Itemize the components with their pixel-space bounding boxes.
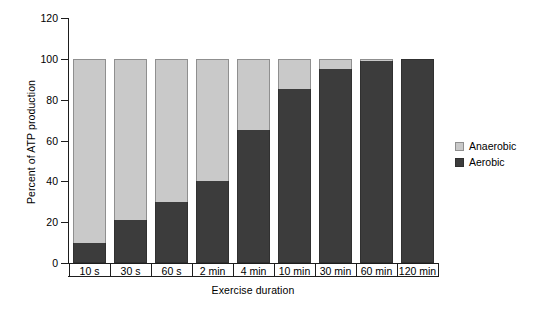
bar-stack[interactable] bbox=[237, 59, 270, 263]
bar-segment-aerobic[interactable] bbox=[237, 130, 270, 263]
bar-slot bbox=[274, 18, 315, 263]
y-axis-tick-label: 60 bbox=[18, 136, 58, 147]
y-axis-tick-label: 0 bbox=[18, 258, 58, 269]
bar-stack[interactable] bbox=[278, 59, 311, 263]
bar-slot bbox=[356, 18, 397, 263]
bar-segment-anaerobic[interactable] bbox=[114, 59, 147, 220]
x-axis-tick-label: 60 min bbox=[356, 265, 397, 277]
bar-slot bbox=[110, 18, 151, 263]
bar-slot bbox=[315, 18, 356, 263]
bar-slot bbox=[397, 18, 438, 263]
x-axis-tick-label: 10 s bbox=[69, 265, 110, 277]
bar-segment-aerobic[interactable] bbox=[196, 181, 229, 263]
x-axis-tick-label: 30 s bbox=[110, 265, 151, 277]
y-axis-tick-label: 100 bbox=[18, 54, 58, 65]
y-axis-tick-label: 120 bbox=[18, 13, 58, 24]
y-axis-tick-mark bbox=[61, 18, 68, 19]
bar-segment-aerobic[interactable] bbox=[319, 69, 352, 263]
bar-stack[interactable] bbox=[360, 59, 393, 263]
bar-segment-anaerobic[interactable] bbox=[278, 59, 311, 90]
bar-slot bbox=[192, 18, 233, 263]
y-axis-tick-mark bbox=[61, 181, 68, 182]
y-axis-tick-mark bbox=[61, 222, 68, 223]
bar-segment-aerobic[interactable] bbox=[278, 89, 311, 263]
x-axis-tick-label: 120 min bbox=[397, 265, 438, 277]
bar-segment-aerobic[interactable] bbox=[73, 243, 106, 263]
y-axis-tick-mark bbox=[61, 141, 68, 142]
bar-segment-aerobic[interactable] bbox=[114, 220, 147, 263]
bar-segment-aerobic[interactable] bbox=[155, 202, 188, 263]
bar-slot bbox=[151, 18, 192, 263]
aerobic-swatch bbox=[455, 158, 464, 167]
anaerobic-swatch bbox=[455, 142, 464, 151]
x-axis-tick-label: 4 min bbox=[233, 265, 274, 277]
bar-segment-anaerobic[interactable] bbox=[196, 59, 229, 182]
y-axis-tick-mark bbox=[61, 59, 68, 60]
y-axis-tick-label: 20 bbox=[18, 217, 58, 228]
bar-segment-anaerobic[interactable] bbox=[237, 59, 270, 130]
x-axis-title: Exercise duration bbox=[68, 284, 438, 296]
bar-segment-anaerobic[interactable] bbox=[319, 59, 352, 69]
bar-segment-aerobic[interactable] bbox=[401, 59, 434, 263]
bar-stack[interactable] bbox=[155, 59, 188, 263]
stacked-bar-chart: Percent of ATP production 02040608010012… bbox=[0, 0, 537, 311]
legend-item-label: Anaerobic bbox=[469, 140, 516, 152]
x-axis-tick-label: 60 s bbox=[151, 265, 192, 277]
bar-segment-anaerobic[interactable] bbox=[73, 59, 106, 243]
y-axis-tick-mark bbox=[61, 100, 68, 101]
bar-stack[interactable] bbox=[401, 59, 434, 263]
y-axis-tick-label: 80 bbox=[18, 95, 58, 106]
y-axis-tick-mark bbox=[61, 263, 68, 264]
bar-stack[interactable] bbox=[73, 59, 106, 263]
legend-item[interactable]: Anaerobic bbox=[455, 139, 516, 153]
x-axis-tick-label: 10 min bbox=[274, 265, 315, 277]
x-axis-tick-label: 30 min bbox=[315, 265, 356, 277]
bar-slot bbox=[233, 18, 274, 263]
plot-area bbox=[69, 18, 438, 263]
bar-stack[interactable] bbox=[319, 59, 352, 263]
legend: AnaerobicAerobic bbox=[455, 139, 516, 171]
bar-slot bbox=[69, 18, 110, 263]
legend-item[interactable]: Aerobic bbox=[455, 155, 516, 169]
x-axis-tick-label: 2 min bbox=[192, 265, 233, 277]
bar-stack[interactable] bbox=[196, 59, 229, 263]
legend-item-label: Aerobic bbox=[469, 156, 505, 168]
y-axis-tick-label: 40 bbox=[18, 176, 58, 187]
x-axis-separator bbox=[438, 263, 439, 277]
bar-stack[interactable] bbox=[114, 59, 147, 263]
bar-segment-aerobic[interactable] bbox=[360, 61, 393, 263]
bar-segment-anaerobic[interactable] bbox=[155, 59, 188, 202]
